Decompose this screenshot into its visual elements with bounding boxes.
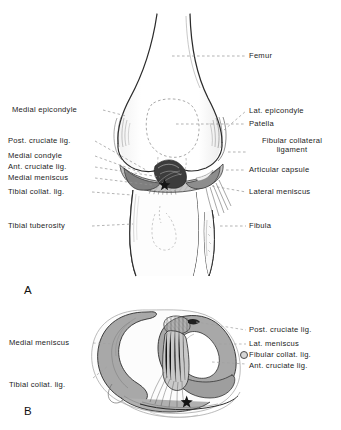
label-tibial-tuberosity: Tibial tuberosity xyxy=(8,221,65,230)
cross-section-marker-icon xyxy=(240,351,248,359)
label-fibula: Fibula xyxy=(249,221,271,230)
label-femur: Femur xyxy=(249,51,272,60)
label-lateral-meniscus: Lateral meniscus xyxy=(249,187,310,196)
label-b-fibular-collat-lig: Fibular collat. lig. xyxy=(249,350,311,359)
label-b-ant-cruciate-lig: Ant. cruciate lig. xyxy=(249,361,308,370)
anatomy-figure: Medial epicondyle Post. cruciate lig. Me… xyxy=(0,0,341,430)
label-medial-epicondyle: Medial epicondyle xyxy=(12,105,77,114)
label-b-tibial-collat-lig: Tibial collat. lig. xyxy=(9,380,65,389)
label-lat-epicondyle: Lat. epicondyle xyxy=(249,106,304,115)
label-fibular-collateral-ligament: Fibular collateral ligament xyxy=(249,136,335,154)
label-patella: Patella xyxy=(249,119,274,128)
panel-b-artwork xyxy=(92,310,246,418)
label-articular-capsule: Articular capsule xyxy=(249,165,309,174)
label-ant-cruciate-lig: Ant. cruciate lig. xyxy=(8,162,67,171)
panel-letter-a: A xyxy=(24,284,32,296)
label-b-lat-meniscus: Lat. meniscus xyxy=(249,339,299,348)
label-medial-meniscus: Medial meniscus xyxy=(8,173,68,182)
label-medial-condyle: Medial condyle xyxy=(8,151,62,160)
label-b-post-cruciate-lig: Post. cruciate lig. xyxy=(249,325,312,334)
label-b-medial-meniscus: Medial meniscus xyxy=(9,338,69,347)
panel-a-artwork xyxy=(92,14,246,276)
label-tibial-collat-lig: Tibial collat. lig. xyxy=(8,187,64,196)
panel-letter-b: B xyxy=(24,405,32,417)
label-post-cruciate-lig: Post. cruciate lig. xyxy=(8,136,71,145)
